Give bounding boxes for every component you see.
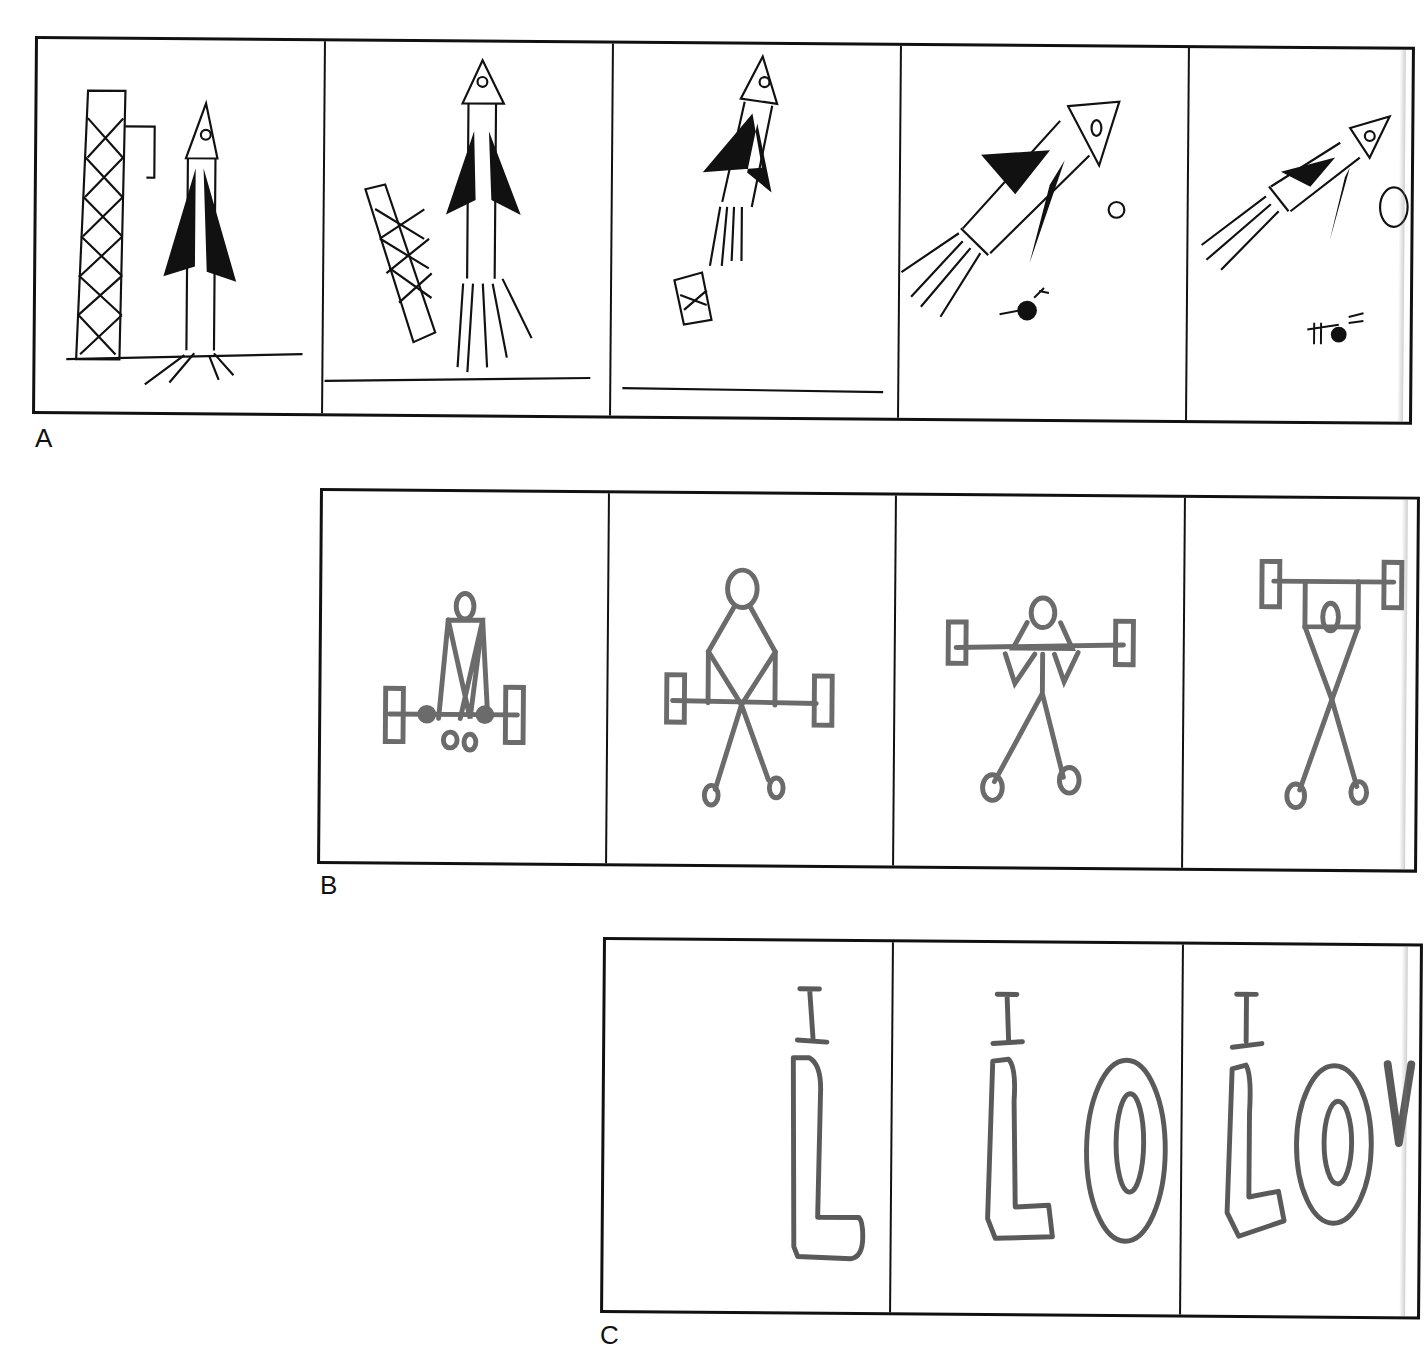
panel-c2-letters xyxy=(891,942,1184,1314)
panel-a1-rocket-on-pad xyxy=(35,39,326,413)
rocket-liftoff-drawing xyxy=(323,41,612,415)
lifter-overhead-drawing xyxy=(1183,498,1423,870)
lifter-deadlift-drawing xyxy=(607,493,895,865)
strip-b-weightlifter xyxy=(317,488,1420,873)
panel-a2-liftoff xyxy=(323,41,614,415)
lifter-crouch-drawing xyxy=(320,491,608,863)
row-label-c: C xyxy=(600,1322,619,1348)
panel-c3-letters xyxy=(1181,945,1426,1317)
lifter-clean-drawing xyxy=(894,496,1184,868)
panel-b4-overhead xyxy=(1183,498,1423,870)
panel-a3-ascent xyxy=(611,44,902,418)
panel-a5-space-flight-continued xyxy=(1187,48,1427,423)
letters-i-l-o-drawing xyxy=(891,942,1182,1314)
letters-i-l-o-v-drawing xyxy=(1181,945,1426,1317)
rocket-ascent-drawing xyxy=(611,44,900,418)
panel-b3-clean xyxy=(894,496,1186,868)
letters-i-l-drawing xyxy=(603,940,892,1312)
rocket-space-flight-drawing xyxy=(899,46,1188,420)
panel-b2-deadlift xyxy=(607,493,897,865)
strip-a-rocket xyxy=(32,36,1415,425)
panel-a4-space-flight xyxy=(899,46,1190,420)
panel-c1-letters xyxy=(603,940,894,1312)
row-label-a: A xyxy=(35,425,52,451)
rocket-on-pad-drawing xyxy=(35,39,324,413)
panel-b1-crouch xyxy=(320,491,610,863)
strip-c-lettering xyxy=(600,937,1423,1319)
rocket-space-flight-continued-drawing xyxy=(1187,48,1427,423)
row-label-b: B xyxy=(320,872,337,898)
